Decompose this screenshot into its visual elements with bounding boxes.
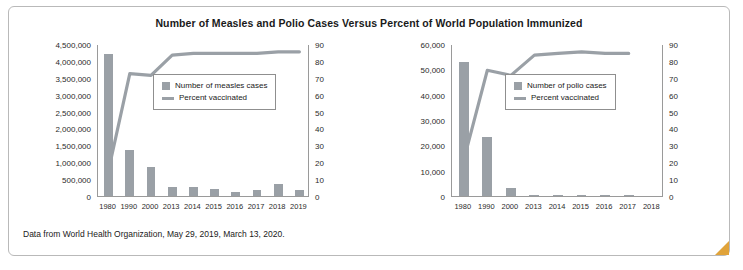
x-tick-label: 1980: [454, 202, 471, 211]
x-tick-label: 2015: [572, 202, 589, 211]
polio-y-axis-right: 0102030405060708090: [665, 41, 705, 197]
polio-chart: 010,00020,00030,00040,00050,00060,000 01…: [377, 41, 707, 221]
x-tick-label: 2014: [549, 202, 566, 211]
bar: [600, 195, 610, 196]
y-tick-left: 10,000: [421, 167, 445, 176]
y-tick-right: 10: [669, 176, 678, 185]
measles-plot-area: [97, 45, 309, 197]
y-tick-right: 60: [315, 91, 324, 100]
y-tick-right: 0: [669, 193, 673, 202]
bar: [104, 54, 113, 196]
y-tick-left: 0: [441, 193, 445, 202]
bar: [210, 189, 219, 196]
bar: [231, 192, 240, 196]
y-tick-left: 60,000: [421, 41, 445, 50]
x-tick-label: 2019: [290, 202, 307, 211]
y-tick-right: 40: [315, 125, 324, 134]
bar: [125, 150, 134, 196]
page-corner-marker: [715, 241, 729, 255]
bar: [506, 188, 516, 196]
bar: [459, 62, 469, 196]
polio-legend: Number of polio cases Percent vaccinated: [505, 74, 616, 110]
bar: [253, 190, 262, 196]
x-tick-label: 2013: [163, 202, 180, 211]
bar: [482, 137, 492, 196]
y-tick-right: 60: [669, 91, 678, 100]
bar: [624, 195, 634, 196]
legend-bar-swatch-icon: [514, 82, 522, 90]
figure-frame: Number of Measles and Polio Cases Versus…: [8, 6, 730, 256]
x-tick-label: 2017: [248, 202, 265, 211]
legend-entry-line: Percent vaccinated: [514, 92, 607, 104]
y-tick-left: 500,000: [62, 176, 91, 185]
y-tick-right: 90: [669, 41, 678, 50]
y-tick-left: 0: [87, 193, 91, 202]
bar: [189, 187, 198, 196]
x-tick-label: 2015: [205, 202, 222, 211]
y-tick-right: 20: [669, 159, 678, 168]
x-tick-label: 2016: [226, 202, 243, 211]
x-tick-label: 2000: [142, 202, 159, 211]
y-tick-left: 2,000,000: [55, 125, 91, 134]
y-tick-left: 4,500,000: [55, 41, 91, 50]
bar: [147, 167, 156, 196]
y-tick-left: 2,500,000: [55, 108, 91, 117]
y-tick-left: 40,000: [421, 91, 445, 100]
x-tick-label: 1990: [478, 202, 495, 211]
legend-line-swatch-icon: [162, 97, 174, 100]
y-tick-left: 50,000: [421, 66, 445, 75]
bar: [168, 187, 177, 196]
legend-line-swatch-icon: [514, 97, 526, 100]
figure-title: Number of Measles and Polio Cases Versus…: [9, 17, 729, 29]
measles-y-axis-left: 0500,0001,000,0001,500,0002,000,0002,500…: [23, 41, 91, 197]
x-tick-label: 2014: [184, 202, 201, 211]
x-tick-label: 2017: [619, 202, 636, 211]
measles-chart: 0500,0001,000,0001,500,0002,000,0002,500…: [23, 41, 353, 221]
polio-x-axis-labels: 198019902000201320142015201620172018: [451, 201, 663, 219]
y-tick-left: 30,000: [421, 117, 445, 126]
y-tick-right: 30: [669, 142, 678, 151]
y-tick-left: 4,000,000: [55, 57, 91, 66]
bar: [295, 190, 304, 196]
y-tick-left: 20,000: [421, 142, 445, 151]
legend-bar-label: Number of polio cases: [527, 80, 607, 92]
measles-legend: Number of measles cases Percent vaccinat…: [153, 74, 276, 110]
y-tick-right: 40: [669, 125, 678, 134]
polio-plot-area: [451, 45, 663, 197]
y-tick-right: 20: [315, 159, 324, 168]
x-tick-label: 2018: [643, 202, 660, 211]
bar: [577, 195, 587, 196]
x-tick-label: 1990: [120, 202, 137, 211]
y-tick-left: 3,500,000: [55, 74, 91, 83]
y-tick-right: 70: [315, 74, 324, 83]
y-tick-right: 80: [315, 57, 324, 66]
legend-entry-bar: Number of polio cases: [514, 80, 607, 92]
measles-x-axis-labels: 1980199020002013201420152016201720182019: [97, 201, 309, 219]
x-tick-label: 2013: [525, 202, 542, 211]
legend-entry-bar: Number of measles cases: [162, 80, 267, 92]
y-tick-right: 10: [315, 176, 324, 185]
y-tick-right: 70: [669, 74, 678, 83]
legend-bar-swatch-icon: [162, 82, 170, 90]
y-tick-right: 0: [315, 193, 319, 202]
x-tick-label: 2018: [269, 202, 286, 211]
x-tick-label: 2000: [502, 202, 519, 211]
bar: [529, 195, 539, 196]
y-tick-left: 3,000,000: [55, 91, 91, 100]
y-tick-right: 30: [315, 142, 324, 151]
y-tick-right: 90: [315, 41, 324, 50]
y-tick-right: 80: [669, 57, 678, 66]
legend-line-label: Percent vaccinated: [531, 92, 599, 104]
polio-y-axis-left: 010,00020,00030,00040,00050,00060,000: [377, 41, 445, 197]
measles-y-axis-right: 0102030405060708090: [311, 41, 351, 197]
figure-caption: Data from World Health Organization, May…: [23, 229, 285, 239]
y-tick-right: 50: [669, 108, 678, 117]
y-tick-left: 1,500,000: [55, 142, 91, 151]
y-tick-right: 50: [315, 108, 324, 117]
legend-entry-line: Percent vaccinated: [162, 92, 267, 104]
legend-bar-label: Number of measles cases: [175, 80, 267, 92]
legend-line-label: Percent vaccinated: [179, 92, 247, 104]
bar: [274, 184, 283, 196]
x-tick-label: 1980: [99, 202, 116, 211]
x-tick-label: 2016: [596, 202, 613, 211]
